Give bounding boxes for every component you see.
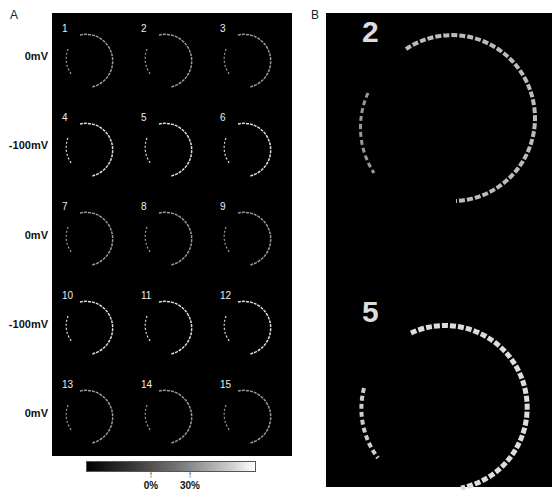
cell-number: 9 <box>220 201 226 212</box>
ring-enlarged-2 <box>326 13 552 243</box>
colorbar-tick-30pct: 30% <box>175 480 205 491</box>
cell-4: 4 <box>52 102 132 190</box>
cell-12: 12 <box>210 280 290 368</box>
cell-number: 4 <box>62 112 68 123</box>
cell-6: 6 <box>210 102 290 190</box>
row-label-4: -100mV <box>0 318 48 330</box>
cell-number: 8 <box>141 201 147 212</box>
ring-enlarged-5 <box>326 293 552 493</box>
panel-a-image-grid: 123456789101112131415 <box>52 13 292 456</box>
panel-b-label: B <box>311 8 319 22</box>
cell-number: 12 <box>220 290 231 301</box>
panel-a-label: A <box>10 8 18 22</box>
colorbar-tick-arrow-0: ↑ <box>136 469 166 480</box>
cell-number: 14 <box>141 379 152 390</box>
cell-11: 11 <box>131 280 211 368</box>
cell-5: 5 <box>131 102 211 190</box>
cell-7: 7 <box>52 191 132 279</box>
cell-number: 7 <box>62 201 68 212</box>
cell-13: 13 <box>52 369 132 457</box>
cell-number: 13 <box>62 379 73 390</box>
cell-9: 9 <box>210 191 290 279</box>
cell-3: 3 <box>210 13 290 101</box>
cell-14: 14 <box>131 369 211 457</box>
cell-number: 1 <box>62 23 68 34</box>
row-label-5: 0mV <box>0 407 48 419</box>
cell-8: 8 <box>131 191 211 279</box>
cell-number: 3 <box>220 23 226 34</box>
colorbar <box>86 461 256 472</box>
cell-number: 6 <box>220 112 226 123</box>
cell-number: 15 <box>220 379 231 390</box>
cell-2: 2 <box>131 13 211 101</box>
cell-1: 1 <box>52 13 132 101</box>
cell-number: 2 <box>141 23 147 34</box>
cell-number: 5 <box>141 112 147 123</box>
cell-10: 10 <box>52 280 132 368</box>
panel-b-enlarged: 2 5 <box>326 13 552 487</box>
colorbar-tick-arrow-30: ↑ <box>175 469 205 480</box>
row-label-2: -100mV <box>0 139 48 151</box>
cell-15: 15 <box>210 369 290 457</box>
row-label-1: 0mV <box>0 50 48 62</box>
row-label-3: 0mV <box>0 229 48 241</box>
colorbar-tick-0pct: 0% <box>136 480 166 491</box>
cell-number: 11 <box>141 290 151 301</box>
cell-number: 10 <box>62 290 73 301</box>
